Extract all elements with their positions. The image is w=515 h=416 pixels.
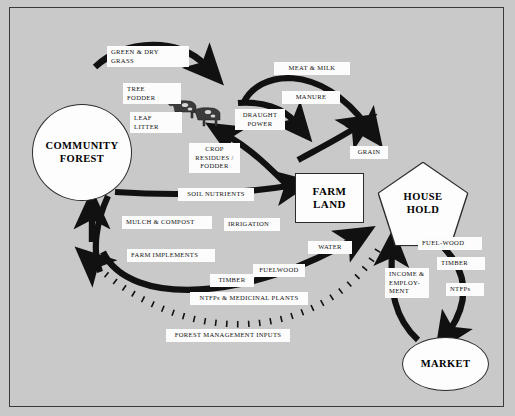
node-house-hold-line2: HOLD <box>404 204 443 217</box>
label-green-dry-grass-line1: GREEN & DRY <box>111 48 185 57</box>
label-income-employment-line3: MENT <box>389 287 425 296</box>
label-green-dry-grass-line2: GRASS <box>111 57 185 66</box>
label-crop-residues-line3: FODDER <box>193 162 236 171</box>
flow-farmland-to-household-grain <box>298 128 355 160</box>
label-crop-residues-fodder: CROP RESIDUES / FODDER <box>189 143 240 173</box>
label-timber-lower: TIMBER <box>210 274 254 287</box>
label-leaf-litter: LEAF LITTER <box>130 112 182 133</box>
label-draught-power: DRAUGHT POWER <box>235 109 285 130</box>
label-ntfps-medicinal-plants: NTFPs & MEDICINAL PLANTS <box>190 292 308 305</box>
label-meat-milk: MEAT & MILK <box>274 62 350 75</box>
label-fuelwood-lower: FUELWOOD <box>253 264 305 277</box>
label-income-employment: INCOME & EMPLOY- MENT <box>385 268 429 298</box>
node-market-label: MARKET <box>421 358 471 371</box>
label-leaf-litter-line2: LITTER <box>134 123 178 132</box>
label-soil-nutrients: SOIL NUTRIENTS <box>178 188 254 201</box>
node-community-forest-line1: COMMUNITY <box>45 140 118 153</box>
label-manure: MANURE <box>282 91 340 104</box>
label-crop-residues-line1: CROP <box>193 145 236 154</box>
label-income-employment-line1: INCOME & <box>389 270 425 279</box>
label-grain: GRAIN <box>350 146 388 159</box>
node-house-hold[interactable]: HOUSE HOLD <box>379 163 467 245</box>
diagram-canvas: COMMUNITY FOREST FARM LAND HOUSE HOLD MA… <box>0 0 515 416</box>
node-market[interactable]: MARKET <box>402 337 489 391</box>
node-farm-land[interactable]: FARM LAND <box>295 173 364 223</box>
label-mulch-compost: MULCH & COMPOST <box>122 216 212 229</box>
label-green-dry-grass: GREEN & DRY GRASS <box>107 46 189 67</box>
label-draught-power-line1: DRAUGHT <box>239 111 281 120</box>
label-ntfps-right: NTFPs <box>446 283 484 296</box>
label-water: WATER <box>308 241 352 254</box>
node-house-hold-line1: HOUSE <box>404 191 443 204</box>
label-farm-implements: FARM IMPLEMENTS <box>127 249 215 262</box>
label-leaf-litter-line1: LEAF <box>134 114 178 123</box>
label-irrigation: IRRIGATION <box>224 218 280 231</box>
node-farm-land-line1: FARM <box>313 185 347 198</box>
node-farm-land-line2: LAND <box>313 198 347 211</box>
node-community-forest[interactable]: COMMUNITY FOREST <box>32 104 132 201</box>
node-community-forest-line2: FOREST <box>45 153 118 166</box>
label-forest-management-inputs: FOREST MANAGEMENT INPUTS <box>166 329 290 342</box>
label-draught-power-line2: POWER <box>239 120 281 129</box>
label-fuel-wood-right: FUEL-WOOD <box>418 237 482 250</box>
label-crop-residues-line2: RESIDUES / <box>193 154 236 163</box>
label-tree-fodder-line1: TREE <box>127 85 177 94</box>
label-income-employment-line2: EMPLOY- <box>389 279 425 288</box>
label-timber-right: TIMBER <box>437 257 485 270</box>
label-tree-fodder: TREE FODDER <box>123 83 181 104</box>
label-tree-fodder-line2: FODDER <box>127 94 177 103</box>
